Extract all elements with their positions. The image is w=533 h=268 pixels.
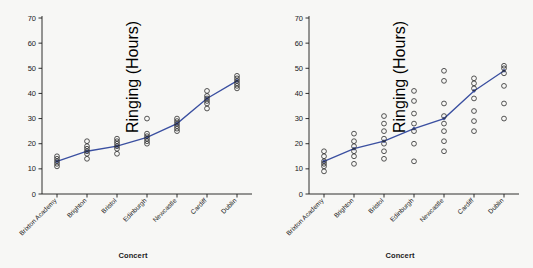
data-point — [472, 129, 477, 134]
x-tick-label: Newcastle — [418, 197, 445, 224]
data-point — [502, 116, 507, 121]
y-tick-label: 40 — [295, 89, 303, 98]
data-point — [442, 121, 447, 126]
data-point — [412, 111, 417, 116]
data-point — [382, 121, 387, 126]
x-tick-label: Edinburgh — [388, 197, 415, 224]
y-tick-label: 0 — [299, 190, 303, 199]
data-point — [442, 78, 447, 83]
y-tick-label: 40 — [28, 89, 36, 98]
data-point — [145, 116, 150, 121]
data-point — [472, 96, 477, 101]
data-point — [322, 154, 327, 159]
y-tick-label: 0 — [32, 190, 36, 199]
data-point — [352, 154, 357, 159]
x-tick-label: Newcastle — [151, 197, 178, 224]
x-tick-label: Bristol — [367, 196, 385, 214]
data-point — [502, 101, 507, 106]
data-point — [205, 106, 210, 111]
data-point — [442, 129, 447, 134]
data-point — [412, 121, 417, 126]
data-point — [442, 101, 447, 106]
y-tick-label: 10 — [295, 164, 303, 173]
data-point — [412, 159, 417, 164]
chart-panel-right: 010203040506070Brixton AcademyBrightonBr… — [267, 0, 533, 268]
x-tick-label: Brighton — [332, 197, 355, 220]
data-point — [382, 114, 387, 119]
x-tick-label: Edinburgh — [121, 197, 148, 224]
x-tick-label: Dublin — [220, 197, 238, 215]
data-point — [85, 139, 90, 144]
x-tick-label: Brixton Academy — [18, 196, 59, 237]
y-tick-label: 50 — [28, 64, 36, 73]
data-point — [502, 83, 507, 88]
y-tick-label: 30 — [295, 114, 303, 123]
data-point — [472, 81, 477, 86]
data-point — [205, 89, 210, 94]
y-axis-title-left: Ringing (Hours) — [124, 0, 142, 133]
y-tick-label: 70 — [28, 14, 36, 23]
x-axis-title-left: Concert — [0, 251, 266, 260]
x-axis-title-right: Concert — [267, 251, 533, 260]
data-point — [382, 156, 387, 161]
y-tick-label: 60 — [28, 39, 36, 48]
y-tick-label: 20 — [28, 139, 36, 148]
x-tick-label: Brixton Academy — [285, 196, 326, 237]
y-tick-label: 30 — [28, 114, 36, 123]
data-point — [352, 161, 357, 166]
x-tick-label: Cardiff — [189, 197, 208, 216]
data-point — [352, 131, 357, 136]
data-point — [352, 139, 357, 144]
y-tick-label: 50 — [295, 64, 303, 73]
data-point — [322, 149, 327, 154]
data-point — [442, 149, 447, 154]
y-tick-label: 60 — [295, 39, 303, 48]
data-point — [85, 156, 90, 161]
chart-page: 010203040506070Brixton AcademyBrightonBr… — [0, 0, 533, 268]
data-point — [442, 68, 447, 73]
x-tick-label: Dublin — [487, 197, 505, 215]
data-point — [412, 99, 417, 104]
data-point — [382, 149, 387, 154]
chart-panel-left: 010203040506070Brixton AcademyBrightonBr… — [0, 0, 266, 268]
data-point — [412, 89, 417, 94]
data-point — [322, 169, 327, 174]
x-tick-label: Bristol — [100, 196, 118, 214]
y-tick-label: 20 — [295, 139, 303, 148]
data-point — [472, 109, 477, 114]
data-point — [472, 76, 477, 81]
data-point — [115, 151, 120, 156]
x-tick-label: Cardiff — [456, 197, 475, 216]
y-tick-label: 10 — [28, 164, 36, 173]
data-point — [412, 141, 417, 146]
y-tick-label: 70 — [295, 14, 303, 23]
data-point — [472, 119, 477, 124]
data-point — [382, 129, 387, 134]
y-axis-title-right: Ringing (Hours) — [391, 0, 409, 133]
data-point — [442, 139, 447, 144]
x-tick-label: Brighton — [65, 197, 88, 220]
